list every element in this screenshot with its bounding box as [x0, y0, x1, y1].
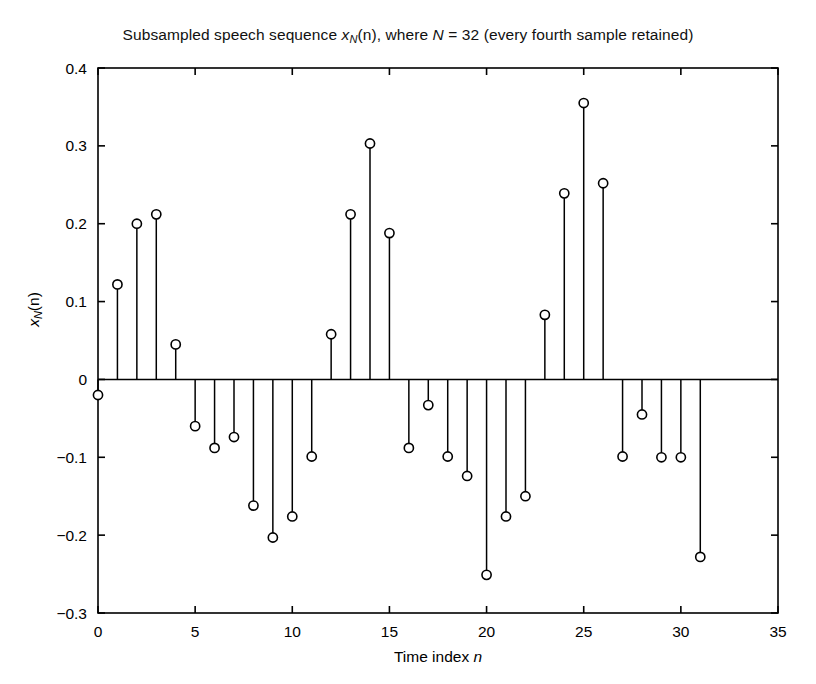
data-point-marker [113, 280, 122, 289]
x-tick-label: 30 [672, 623, 690, 640]
data-point-marker [482, 570, 491, 579]
data-point-marker [696, 552, 705, 561]
data-point-marker [171, 340, 180, 349]
data-markers [93, 98, 704, 579]
axes-frame [98, 68, 778, 613]
data-point-marker [191, 422, 200, 431]
data-point-marker [307, 452, 316, 461]
tick-marks [98, 68, 778, 613]
data-point-marker [521, 492, 530, 501]
x-tick-label: 0 [94, 623, 103, 640]
data-point-marker [657, 453, 666, 462]
y-tick-label: 0.4 [65, 60, 87, 77]
tick-labels: 05101520253035−0.3−0.2−0.100.10.20.30.4 [56, 60, 786, 641]
y-tick-label: 0.1 [65, 293, 87, 310]
data-point-marker [268, 533, 277, 542]
data-point-marker [463, 471, 472, 480]
data-point-marker [385, 228, 394, 237]
data-point-marker [210, 443, 219, 452]
y-tick-label: 0 [78, 371, 87, 388]
data-point-marker [501, 512, 510, 521]
x-axis-label: Time index n [98, 648, 778, 666]
y-axis-label: xN(n) [25, 290, 44, 330]
data-point-marker [424, 401, 433, 410]
data-point-marker [346, 210, 355, 219]
data-point-marker [93, 390, 102, 399]
x-tick-label: 25 [575, 623, 592, 640]
data-point-marker [560, 189, 569, 198]
data-point-marker [249, 501, 258, 510]
x-tick-label: 20 [478, 623, 496, 640]
data-point-marker [365, 139, 374, 148]
y-tick-label: 0.2 [65, 215, 87, 232]
y-tick-label: −0.1 [56, 449, 87, 466]
data-point-marker [152, 210, 161, 219]
x-tick-label: 15 [381, 623, 398, 640]
x-tick-label: 10 [284, 623, 302, 640]
data-point-marker [540, 310, 549, 319]
y-axis-label-var: x [25, 319, 42, 327]
data-point-marker [229, 432, 238, 441]
y-tick-label: 0.3 [65, 137, 87, 154]
data-point-marker [599, 179, 608, 188]
data-point-marker [618, 452, 627, 461]
data-point-marker [404, 443, 413, 452]
data-point-marker [288, 512, 297, 521]
x-tick-label: 35 [769, 623, 786, 640]
stem-lines [98, 103, 700, 575]
x-axis-label-pre: Time index [394, 648, 474, 665]
data-point-marker [637, 410, 646, 419]
x-tick-label: 5 [191, 623, 200, 640]
data-point-marker [676, 453, 685, 462]
y-tick-label: −0.3 [56, 605, 87, 622]
x-axis-label-var: n [473, 648, 482, 665]
y-axis-label-sub: N [32, 311, 44, 319]
plot-area: 05101520253035−0.3−0.2−0.100.10.20.30.4 [0, 0, 816, 684]
data-point-marker [327, 330, 336, 339]
data-point-marker [579, 98, 588, 107]
y-axis-label-post: (n) [25, 292, 42, 311]
data-point-marker [443, 452, 452, 461]
y-tick-label: −0.2 [56, 527, 87, 544]
figure-container: Subsampled speech sequence xN(n), where … [0, 0, 816, 684]
data-point-marker [132, 219, 141, 228]
